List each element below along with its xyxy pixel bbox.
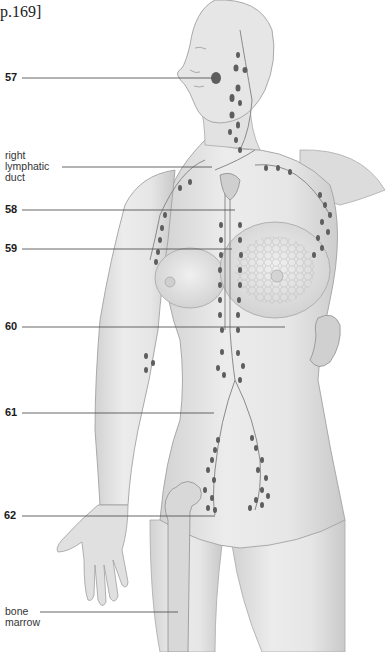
label-right-lymphatic-duct: right lymphatic duct <box>5 150 49 183</box>
label-line: duct <box>5 172 49 183</box>
lymphatic-diagram: p.169] 57 right lymphatic duct 58 59 60 … <box>0 0 391 652</box>
label-62: 62 <box>4 509 16 521</box>
label-59: 59 <box>5 242 17 254</box>
page-reference: p.169] <box>0 3 41 21</box>
label-61: 61 <box>5 406 17 418</box>
label-line: marrow <box>5 617 40 628</box>
label-57: 57 <box>5 71 17 83</box>
leader-lines <box>0 0 391 652</box>
label-60: 60 <box>5 320 17 332</box>
label-bone-marrow: bone marrow <box>5 606 40 628</box>
label-58: 58 <box>5 203 17 215</box>
